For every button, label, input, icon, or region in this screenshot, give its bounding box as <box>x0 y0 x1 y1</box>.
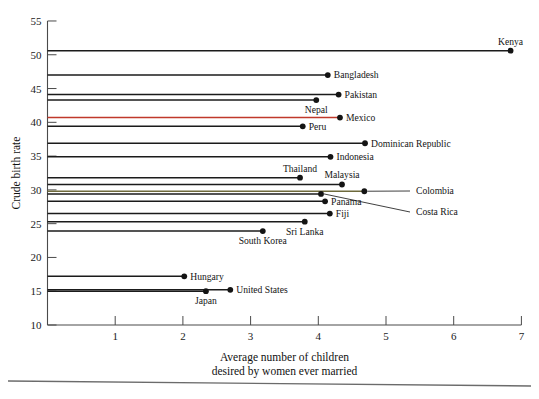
data-point-fiji[interactable] <box>327 211 333 217</box>
data-point-peru[interactable] <box>300 123 306 129</box>
y-tick-label-50: 50 <box>31 49 43 61</box>
data-point-label-indonesia: Indonesia <box>336 151 374 162</box>
x-tick-label-5: 5 <box>383 330 389 342</box>
data-point-south-korea[interactable] <box>260 228 266 234</box>
data-point-panama[interactable] <box>322 198 328 204</box>
x-tick-label-3: 3 <box>248 330 254 342</box>
data-point-label-japan: Japan <box>195 295 217 306</box>
data-point-colombia[interactable] <box>361 188 367 194</box>
data-point-label-colombia: Colombia <box>416 185 455 196</box>
scatter-plot: 101520253035404550551234567 KenyaBanglad… <box>0 0 539 399</box>
data-point-label-thailand: Thailand <box>283 163 317 174</box>
data-point-labels-layer: KenyaBangladeshPakistanNepalMexicoPeruDo… <box>190 36 524 307</box>
x-tick-label-2: 2 <box>180 330 186 342</box>
data-point-label-peru: Peru <box>309 121 327 132</box>
x-tick-label-7: 7 <box>519 330 525 342</box>
data-point-japan[interactable] <box>203 288 209 294</box>
data-point-sri-lanka[interactable] <box>302 219 308 225</box>
data-point-dominican-republic[interactable] <box>362 140 368 146</box>
data-series-layer <box>48 48 514 294</box>
data-point-kenya[interactable] <box>508 48 514 54</box>
y-tick-label-15: 15 <box>31 285 43 297</box>
data-point-hungary[interactable] <box>181 273 187 279</box>
data-point-pakistan[interactable] <box>336 92 342 98</box>
chart-container: 101520253035404550551234567 KenyaBanglad… <box>0 0 539 399</box>
data-point-label-south-korea: South Korea <box>239 235 288 246</box>
data-point-label-sri-lanka: Sri Lanka <box>286 226 324 237</box>
data-point-label-costa-rica: Costa Rica <box>416 206 459 217</box>
data-point-bangladesh[interactable] <box>325 72 331 78</box>
x-axis-title-line2: desired by women ever married <box>212 365 358 378</box>
x-tick-label-6: 6 <box>451 330 457 342</box>
data-point-label-kenya: Kenya <box>498 36 524 47</box>
page-bottom-rule <box>8 381 531 386</box>
y-tick-label-30: 30 <box>31 184 43 196</box>
y-tick-label-25: 25 <box>31 218 43 230</box>
data-point-label-malaysia: Malaysia <box>324 169 360 180</box>
data-point-label-nepal: Nepal <box>305 104 328 115</box>
data-point-label-dominican-republic: Dominican Republic <box>371 138 451 149</box>
x-axis-title-line1: Average number of children <box>220 351 349 364</box>
data-point-label-bangladesh: Bangladesh <box>334 69 379 80</box>
data-point-label-pakistan: Pakistan <box>345 89 378 100</box>
data-point-malaysia[interactable] <box>339 182 345 188</box>
data-point-label-fiji: Fiji <box>336 208 350 219</box>
data-point-mexico[interactable] <box>337 115 343 121</box>
y-tick-label-40: 40 <box>31 116 43 128</box>
data-point-costa-rica[interactable] <box>318 191 324 197</box>
data-point-nepal[interactable] <box>313 97 319 103</box>
data-point-united-states[interactable] <box>227 287 233 293</box>
x-tick-label-1: 1 <box>112 330 118 342</box>
y-tick-label-55: 55 <box>31 15 43 27</box>
data-point-label-panama: Panama <box>331 196 362 207</box>
data-point-indonesia[interactable] <box>328 154 334 160</box>
data-point-label-united-states: United States <box>236 284 288 295</box>
y-tick-label-45: 45 <box>31 83 43 95</box>
y-tick-label-20: 20 <box>31 251 43 263</box>
y-axis-title: Crude birth rate <box>10 137 22 210</box>
data-point-label-hungary: Hungary <box>190 271 224 282</box>
y-tick-label-10: 10 <box>31 319 43 331</box>
data-point-label-mexico: Mexico <box>346 112 376 123</box>
data-point-thailand[interactable] <box>297 175 303 181</box>
y-tick-label-35: 35 <box>31 150 43 162</box>
x-tick-label-4: 4 <box>316 330 322 342</box>
